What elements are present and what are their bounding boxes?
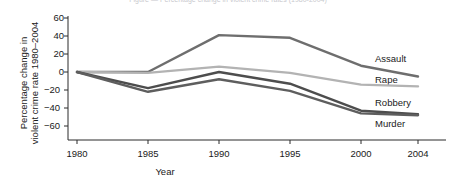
series-line-murder <box>77 72 418 115</box>
series-line-robbery <box>77 72 418 114</box>
axes <box>64 16 446 144</box>
plot-area <box>0 0 456 188</box>
chart-figure: Figure — Percentage change in violent cr… <box>0 0 456 188</box>
series-lines <box>77 35 418 115</box>
